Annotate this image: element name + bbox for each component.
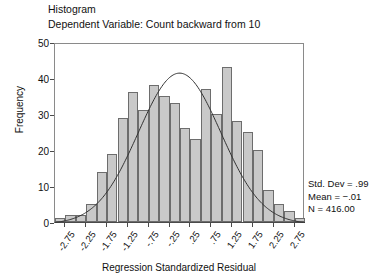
- normal-distribution-curve: [55, 44, 303, 222]
- x-axis-tick-mark: [64, 223, 65, 227]
- x-axis-tick-mark: [169, 223, 170, 227]
- x-axis-tick-label: .75: [207, 229, 224, 246]
- y-axis-tick-label: 40: [38, 74, 49, 85]
- histogram-figure: Histogram Dependent Variable: Count back…: [0, 0, 385, 278]
- mean-label: Mean = −.01: [308, 191, 368, 204]
- x-axis-tick-mark: [294, 223, 295, 227]
- y-axis-tick-label: 10: [38, 182, 49, 193]
- std-dev-label: Std. Dev = .99: [308, 178, 368, 191]
- x-axis-tick-label: 1.25: [224, 229, 244, 250]
- x-axis-tick-mark: [127, 223, 128, 227]
- x-axis-tick-label: -.75: [142, 229, 160, 249]
- x-axis-tick-label: -1.25: [118, 229, 139, 253]
- x-axis-title: Regression Standardized Residual: [54, 262, 304, 273]
- x-axis-tick-label: -1.75: [98, 229, 119, 253]
- x-axis-tick-mark: [252, 223, 253, 227]
- chart-title: Histogram: [48, 3, 96, 15]
- y-axis-tick-label: 20: [38, 146, 49, 157]
- x-axis-tick-mark: [189, 223, 190, 227]
- n-label: N = 416.00: [308, 203, 368, 216]
- y-axis-tick-mark: [50, 43, 54, 44]
- x-axis-tick-label: 2.75: [287, 229, 307, 250]
- y-axis-tick-labels: 01020304050: [22, 43, 49, 223]
- x-axis-tick-mark: [85, 223, 86, 227]
- x-axis-tick-mark: [273, 223, 274, 227]
- y-axis-tick-mark: [50, 187, 54, 188]
- y-axis-tick-mark: [50, 151, 54, 152]
- x-axis-tick-mark: [210, 223, 211, 227]
- x-axis-tick-label: -.25: [163, 229, 181, 249]
- y-axis-tick-label: 0: [43, 218, 49, 229]
- y-axis-tick-label: 50: [38, 38, 49, 49]
- x-axis-tick-mark: [148, 223, 149, 227]
- chart-subtitle: Dependent Variable: Count backward from …: [48, 18, 260, 30]
- y-axis-tick-label: 30: [38, 110, 49, 121]
- x-axis-tick-label: .25: [186, 229, 203, 246]
- x-axis-tick-label: 1.75: [245, 229, 265, 250]
- statistics-annotation: Std. Dev = .99 Mean = −.01 N = 416.00: [308, 178, 368, 216]
- y-axis-tick-mark: [50, 79, 54, 80]
- y-axis-tick-mark: [50, 223, 54, 224]
- plot-area: [54, 43, 304, 223]
- x-axis-tick-label: -2.25: [77, 229, 98, 253]
- y-axis-tick-mark: [50, 115, 54, 116]
- x-axis-tick-mark: [106, 223, 107, 227]
- x-axis-tick-label: 2.25: [266, 229, 286, 250]
- x-axis-tick-label: -2.75: [56, 229, 77, 253]
- y-axis-title: Frequency: [14, 65, 25, 155]
- x-axis-tick-mark: [231, 223, 232, 227]
